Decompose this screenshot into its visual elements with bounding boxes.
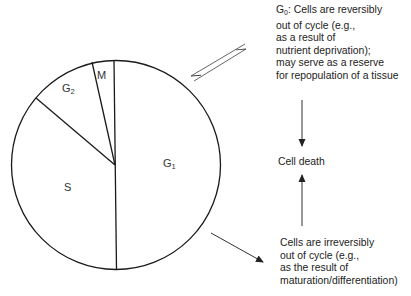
phase-label-s: S bbox=[64, 181, 71, 193]
g0-line-3: as a result of bbox=[276, 32, 398, 45]
cell-death-label: Cell death bbox=[278, 156, 325, 169]
g0-line-4: nutrient deprivation); bbox=[276, 45, 398, 58]
g0-line-1: G0: Cells are reversibly bbox=[276, 4, 398, 20]
g0-line-1-text: : Cells are reversibly bbox=[288, 4, 382, 15]
g2-subscript: 2 bbox=[71, 87, 75, 96]
g0-line-5: may serve as a reserve bbox=[276, 57, 398, 70]
irreversible-line-1: Cells are irreversibly bbox=[280, 237, 398, 250]
g1-text: G bbox=[163, 157, 172, 169]
irreversible-line-3: as the result of bbox=[280, 262, 398, 275]
arrow-to-g0 bbox=[194, 49, 246, 81]
g2-text: G bbox=[62, 82, 71, 94]
g0-line-2: out of cycle (e.g., bbox=[276, 20, 398, 33]
arrow-to-cycle bbox=[191, 44, 245, 76]
s-text: S bbox=[64, 181, 71, 193]
m-text: M bbox=[97, 69, 106, 81]
arrow-cycle-to-irreversible bbox=[211, 233, 263, 262]
phase-label-m: M bbox=[97, 69, 106, 81]
irreversible-line-2: out of cycle (e.g., bbox=[280, 250, 398, 263]
phase-label-g1: G1 bbox=[163, 157, 176, 171]
g0-prefix: G bbox=[276, 4, 284, 15]
g0-description: G0: Cells are reversibly out of cycle (e… bbox=[276, 4, 398, 83]
irreversible-line-4: maturation/differentiation) bbox=[280, 275, 398, 288]
g1-subscript: 1 bbox=[172, 162, 176, 171]
cell-death-text: Cell death bbox=[278, 156, 325, 167]
irreversible-description: Cells are irreversibly out of cycle (e.g… bbox=[280, 237, 398, 287]
phase-label-g2: G2 bbox=[62, 82, 75, 96]
g0-line-6: for repopulation of a tissue bbox=[276, 70, 398, 83]
